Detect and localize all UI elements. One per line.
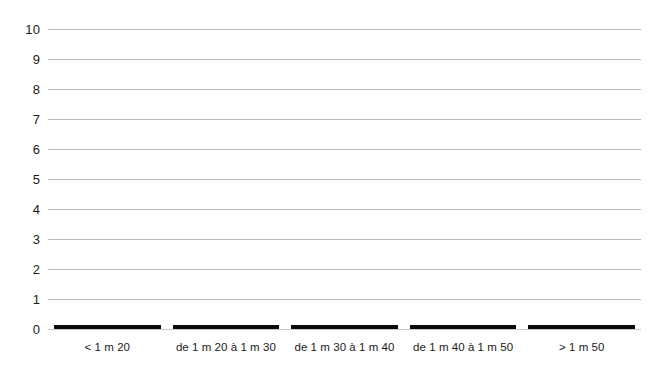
x-tick-label: de 1 m 30 à 1 m 40 bbox=[285, 340, 404, 354]
y-tick-label: 9 bbox=[0, 53, 40, 66]
bars-layer bbox=[48, 29, 641, 329]
y-tick-label: 4 bbox=[0, 203, 40, 216]
bar bbox=[173, 325, 280, 329]
x-axis: < 1 m 20de 1 m 20 à 1 m 30de 1 m 30 à 1 … bbox=[48, 340, 641, 370]
y-tick-label: 8 bbox=[0, 83, 40, 96]
y-tick-label: 2 bbox=[0, 263, 40, 276]
y-tick-label: 1 bbox=[0, 293, 40, 306]
bar-chart: 012345678910 < 1 m 20de 1 m 20 à 1 m 30d… bbox=[0, 0, 663, 376]
bar bbox=[528, 325, 635, 329]
y-tick-label: 5 bbox=[0, 173, 40, 186]
y-tick-label: 10 bbox=[0, 23, 40, 36]
y-axis: 012345678910 bbox=[0, 0, 40, 376]
y-tick-label: 0 bbox=[0, 323, 40, 336]
bar bbox=[54, 325, 161, 329]
x-tick-label: > 1 m 50 bbox=[522, 340, 641, 354]
x-tick-label: < 1 m 20 bbox=[48, 340, 167, 354]
y-tick-label: 7 bbox=[0, 113, 40, 126]
x-tick-label: de 1 m 40 à 1 m 50 bbox=[404, 340, 523, 354]
bar bbox=[291, 325, 398, 329]
bar bbox=[410, 325, 517, 329]
axis-baseline bbox=[48, 329, 641, 330]
y-tick-label: 3 bbox=[0, 233, 40, 246]
y-tick-label: 6 bbox=[0, 143, 40, 156]
x-tick-label: de 1 m 20 à 1 m 30 bbox=[167, 340, 286, 354]
